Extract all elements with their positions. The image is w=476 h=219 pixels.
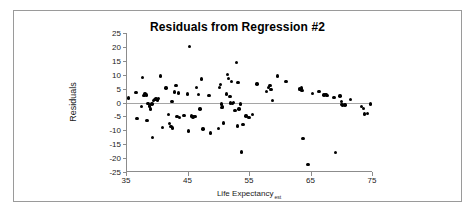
x-tick-label: 35: [122, 176, 131, 185]
scatter-point: [159, 74, 162, 77]
scatter-point: [233, 109, 236, 112]
y-tick-label: -5: [114, 112, 121, 121]
scatter-point: [150, 102, 153, 105]
scatter-point: [167, 113, 170, 116]
y-tick-mark: [123, 103, 127, 104]
y-tick-label: -15: [109, 140, 121, 149]
y-tick-mark: [123, 61, 127, 62]
x-tick-label: 55: [245, 176, 254, 185]
y-tick-mark: [123, 89, 127, 90]
scatter-point: [369, 102, 372, 105]
y-tick-label: -25: [109, 168, 121, 177]
scatter-point: [209, 131, 212, 134]
scatter-point: [187, 129, 190, 132]
scatter-point: [178, 116, 181, 119]
y-tick-label: 20: [112, 42, 121, 51]
scatter-point: [195, 86, 198, 89]
scatter-point: [134, 91, 137, 94]
scatter-point: [241, 123, 244, 126]
scatter-point: [217, 127, 220, 130]
scatter-point: [157, 97, 160, 100]
scatter-point: [197, 93, 200, 96]
scatter-point: [247, 116, 250, 119]
scatter-point: [332, 96, 335, 99]
scatter-point: [200, 77, 203, 80]
scatter-point: [193, 115, 196, 118]
scatter-point: [201, 127, 204, 130]
x-axis-title: Life Expectancyest: [126, 189, 372, 200]
scatter-point: [325, 94, 328, 97]
scatter-point: [251, 113, 254, 116]
scatter-point: [188, 45, 191, 48]
scatter-point: [221, 105, 224, 108]
y-tick-label: -20: [109, 154, 121, 163]
scatter-point: [222, 121, 225, 124]
scatter-point: [237, 107, 240, 110]
y-tick-mark: [123, 75, 127, 76]
scatter-point: [182, 114, 185, 117]
scatter-point: [127, 96, 130, 99]
scatter-point: [366, 112, 369, 115]
scatter-point: [141, 76, 144, 79]
x-axis-title-text: Life Expectancy: [217, 189, 273, 198]
scatter-point: [235, 61, 238, 64]
scatter-point: [226, 73, 229, 76]
x-tick-label: 75: [368, 176, 377, 185]
scatter-point: [151, 136, 154, 139]
scatter-point: [149, 107, 152, 110]
scatter-point: [232, 101, 235, 104]
y-axis-title: Residuals: [68, 82, 78, 122]
chart-title: Residuals from Regression #2: [14, 20, 461, 34]
scatter-point: [207, 94, 210, 97]
y-tick-label: 10: [112, 70, 121, 79]
scatter-point: [173, 90, 176, 93]
scatter-point: [174, 84, 177, 87]
scatter-point: [177, 91, 180, 94]
scatter-point: [334, 151, 337, 154]
x-axis-title-subscript: est: [274, 194, 281, 200]
scatter-point: [349, 98, 352, 101]
scatter-point: [269, 88, 272, 91]
y-tick-mark: [123, 33, 127, 34]
scatter-point: [145, 93, 148, 96]
scatter-point: [218, 86, 221, 89]
scatter-point: [255, 82, 258, 85]
scatter-point: [164, 86, 167, 89]
scatter-point: [171, 126, 174, 129]
scatter-point: [230, 80, 233, 83]
scatter-point: [268, 84, 271, 87]
y-tick-label: 0: [117, 98, 121, 107]
plot-area: 2520151050-5-10-15-20-25 3545556575: [126, 33, 372, 172]
x-tick-label: 45: [183, 176, 192, 185]
scatter-point: [135, 117, 138, 120]
y-tick-mark: [123, 130, 127, 131]
scatter-point: [300, 89, 303, 92]
chart-figure-frame: Residuals from Regression #2 2520151050-…: [13, 10, 462, 202]
scatter-point: [306, 163, 309, 166]
scatter-point: [301, 137, 304, 140]
y-tick-label: 15: [112, 56, 121, 65]
scatter-point: [219, 83, 222, 86]
scatter-point: [240, 150, 243, 153]
scatter-point: [311, 92, 314, 95]
scatter-point: [145, 119, 148, 122]
zero-reference-line: [126, 103, 372, 104]
scatter-point: [236, 124, 239, 127]
scatter-point: [140, 105, 143, 108]
scatter-point: [343, 103, 346, 106]
y-tick-mark: [123, 158, 127, 159]
scatter-point: [317, 90, 320, 93]
scatter-point: [271, 99, 274, 102]
y-tick-label: 25: [112, 29, 121, 38]
scatter-point: [161, 126, 164, 129]
scatter-point: [228, 95, 231, 98]
scatter-point: [284, 80, 287, 83]
y-tick-mark: [123, 116, 127, 117]
y-tick-mark: [123, 47, 127, 48]
scatter-point: [186, 92, 189, 95]
scatter-point: [265, 90, 268, 93]
scatter-point: [276, 74, 279, 77]
scatter-point: [198, 107, 201, 110]
y-tick-mark: [123, 144, 127, 145]
y-tick-label: 5: [117, 84, 121, 93]
